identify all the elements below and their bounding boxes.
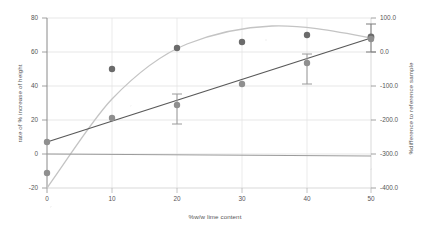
y-axis-right-title: %difference to reference sample: [407, 54, 414, 164]
axis-left-spine: [42, 18, 47, 188]
x-axis-title: %w/w lime content: [135, 213, 295, 220]
y-axis-left-title: rate of % increase of height: [16, 49, 23, 159]
xtick-50: 50: [358, 195, 384, 202]
xtick-30: 30: [229, 195, 255, 202]
ytick-right-100: 100.0: [380, 14, 414, 21]
chart-figure: 80 60 40 20 0 -20 100.0 0.0 -100.0 -200.…: [0, 0, 422, 235]
xtick-0: 0: [34, 195, 60, 202]
ytick-right-minus400: -400.0: [380, 184, 414, 191]
xtick-40: 40: [294, 195, 320, 202]
ytick-left-80: 80: [12, 14, 38, 21]
xtick-20: 20: [164, 195, 190, 202]
axis-right-spine: [371, 18, 376, 188]
ytick-left-minus20: -20: [12, 184, 38, 191]
axis-bottom-ticks: [47, 188, 371, 193]
linear-fit-line: [47, 38, 371, 142]
xtick-10: 10: [99, 195, 125, 202]
quadratic-fit-curve: [47, 26, 371, 188]
grid-lines: [47, 18, 371, 188]
